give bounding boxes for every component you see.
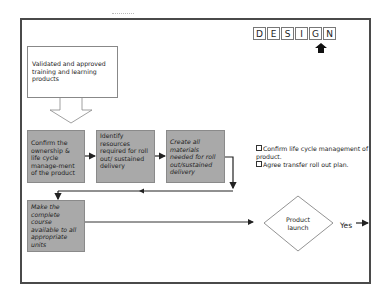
- yes-label: Yes: [340, 221, 352, 230]
- design-indicator-arrow: [315, 43, 327, 53]
- design-letter: D: [253, 27, 266, 40]
- design-letter-active: G: [309, 27, 322, 40]
- input-callout: Validated and approved training and lear…: [27, 46, 118, 98]
- callout-down-arrow: [50, 98, 92, 124]
- design-title: D E S I G N: [253, 27, 336, 40]
- process-step-make-course-available: Make the complete course available to al…: [27, 200, 85, 252]
- decision-label: Product launch: [273, 216, 323, 232]
- design-letter: I: [295, 27, 308, 40]
- checklist-item: Agree transfer roll out plan.: [256, 161, 374, 169]
- design-letter: S: [281, 27, 294, 40]
- checklist-item: Confirm life cycle management of product…: [256, 145, 374, 161]
- design-letter: E: [267, 27, 280, 40]
- checklist: Confirm life cycle management of product…: [256, 145, 374, 169]
- process-step-create-materials: Create all materials needed for roll out…: [166, 130, 225, 183]
- process-step-identify-resources: Identify resources required for roll out…: [96, 130, 155, 183]
- design-letter: N: [323, 27, 336, 40]
- process-step-confirm-ownership: Confirm the ownership & life cycle manag…: [27, 130, 85, 183]
